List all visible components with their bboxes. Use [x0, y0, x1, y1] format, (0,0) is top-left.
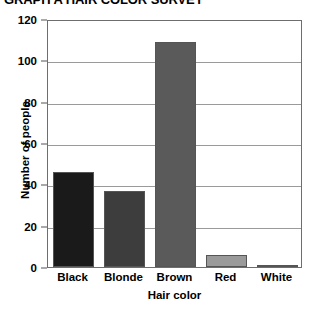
bar-black[interactable]: [53, 172, 94, 267]
bar-white[interactable]: [257, 265, 298, 267]
y-axis-tick-label: 120: [18, 14, 37, 26]
x-axis: BlackBlondeBrownRedWhite: [47, 271, 302, 287]
x-axis-tick-label-black: Black: [57, 271, 88, 283]
x-axis-tick-label-brown: Brown: [157, 271, 193, 283]
x-axis-tick-label-red: Red: [215, 271, 237, 283]
x-axis-tick-label-white: White: [261, 271, 292, 283]
y-axis-tick-label: 20: [24, 221, 37, 233]
bar-red[interactable]: [206, 255, 247, 267]
y-axis-tick-label: 0: [31, 262, 37, 274]
plot-area: [47, 20, 302, 268]
y-axis-tick-label: 100: [18, 55, 37, 67]
x-axis-tick-label-blonde: Blonde: [104, 271, 143, 283]
x-axis-label: Hair color: [47, 289, 302, 301]
chart-figure: GRAPH A HAIR COLOR SURVEY 02040608010012…: [0, 0, 318, 316]
bar-blonde[interactable]: [104, 191, 145, 267]
y-axis-label: Number of people: [19, 80, 31, 220]
bar-brown[interactable]: [155, 42, 196, 267]
